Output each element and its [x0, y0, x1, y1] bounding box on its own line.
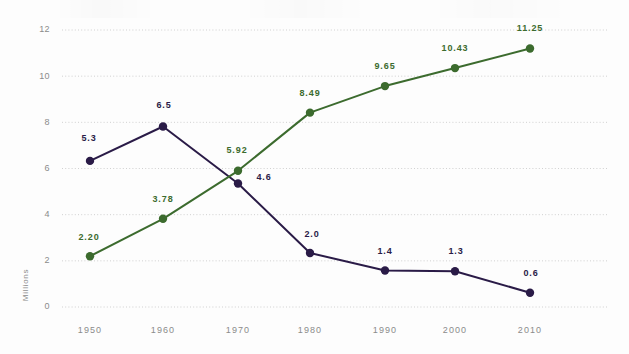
data-point[interactable]	[306, 249, 314, 257]
data-point[interactable]	[234, 167, 242, 175]
data-point[interactable]	[306, 108, 314, 116]
series-line-green-series	[90, 48, 530, 256]
data-point[interactable]	[381, 82, 389, 90]
y-axis-tick-labels: 024681012	[39, 24, 50, 311]
data-point[interactable]	[159, 122, 167, 130]
data-labels: 5.36.54.62.01.41.30.62.203.785.928.499.6…	[78, 23, 543, 277]
gridlines	[62, 30, 608, 307]
data-point[interactable]	[86, 157, 94, 165]
data-label: 2.20	[78, 232, 99, 242]
x-tick-label: 1990	[373, 325, 397, 335]
data-label: 2.0	[304, 229, 319, 239]
data-label: 5.3	[81, 133, 96, 143]
data-label: 10.43	[441, 43, 468, 53]
data-label: 0.6	[523, 268, 538, 278]
x-tick-label: 1970	[226, 325, 250, 335]
line-chart: 024681012 1950196019701980199020002010 M…	[0, 0, 629, 354]
data-label: 9.65	[374, 61, 395, 71]
data-point[interactable]	[526, 288, 534, 296]
y-axis-title: Millions	[21, 269, 30, 301]
y-tick-label: 8	[45, 117, 50, 127]
data-point[interactable]	[451, 267, 459, 275]
data-label: 5.92	[226, 145, 247, 155]
series-points	[86, 44, 534, 297]
data-point[interactable]	[86, 252, 94, 260]
data-point[interactable]	[526, 44, 534, 52]
data-point[interactable]	[451, 64, 459, 72]
y-tick-label: 4	[45, 209, 50, 219]
x-tick-label: 1960	[151, 325, 175, 335]
y-tick-label: 6	[45, 163, 50, 173]
series-line-purple-series	[90, 126, 530, 292]
x-tick-label: 2000	[443, 325, 467, 335]
y-tick-label: 2	[45, 255, 50, 265]
chart-container: 024681012 1950196019701980199020002010 M…	[0, 0, 629, 354]
x-tick-label: 1950	[78, 325, 102, 335]
data-point[interactable]	[159, 215, 167, 223]
data-label: 1.3	[448, 246, 463, 256]
data-label: 11.25	[517, 23, 544, 33]
data-label: 6.5	[156, 100, 171, 110]
data-point[interactable]	[381, 266, 389, 274]
data-label: 8.49	[299, 88, 320, 98]
data-label: 1.4	[377, 246, 392, 256]
x-tick-label: 1980	[298, 325, 322, 335]
data-point[interactable]	[234, 179, 242, 187]
x-tick-label: 2010	[518, 325, 542, 335]
x-axis-tick-labels: 1950196019701980199020002010	[78, 325, 542, 335]
data-label: 4.6	[256, 172, 271, 182]
y-tick-label: 0	[45, 301, 50, 311]
data-label: 3.78	[152, 194, 173, 204]
y-tick-label: 10	[39, 71, 50, 81]
y-tick-label: 12	[39, 24, 50, 34]
